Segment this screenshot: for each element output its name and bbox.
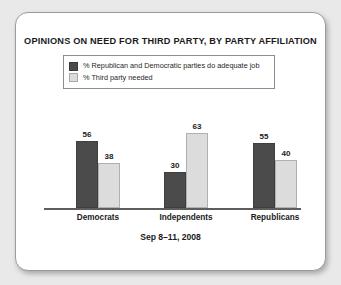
bar-value-democrats-adequate-job: 56	[72, 130, 102, 139]
bar-value-independents-adequate-job: 30	[160, 161, 190, 170]
category-label-independents: Independents	[141, 213, 231, 222]
bar-republicans-third-party-needed[interactable]	[275, 160, 297, 208]
bar-independents-third-party-needed[interactable]	[186, 133, 208, 208]
bar-value-democrats-third-party-needed: 38	[94, 152, 124, 161]
bar-democrats-third-party-needed[interactable]	[98, 163, 120, 208]
bar-value-republicans-adequate-job: 55	[249, 132, 279, 141]
chart-card: OPINIONS ON NEED FOR THIRD PARTY, BY PAR…	[15, 12, 326, 271]
chart-date-footer: Sep 8–11, 2008	[16, 232, 325, 242]
category-label-democrats: Democrats	[53, 213, 143, 222]
bar-value-independents-third-party-needed: 63	[182, 122, 212, 131]
x-axis-baseline	[44, 208, 301, 210]
category-label-republicans: Republicans	[230, 213, 320, 222]
bar-independents-adequate-job[interactable]	[164, 172, 186, 208]
bar-value-republicans-third-party-needed: 40	[271, 149, 301, 158]
